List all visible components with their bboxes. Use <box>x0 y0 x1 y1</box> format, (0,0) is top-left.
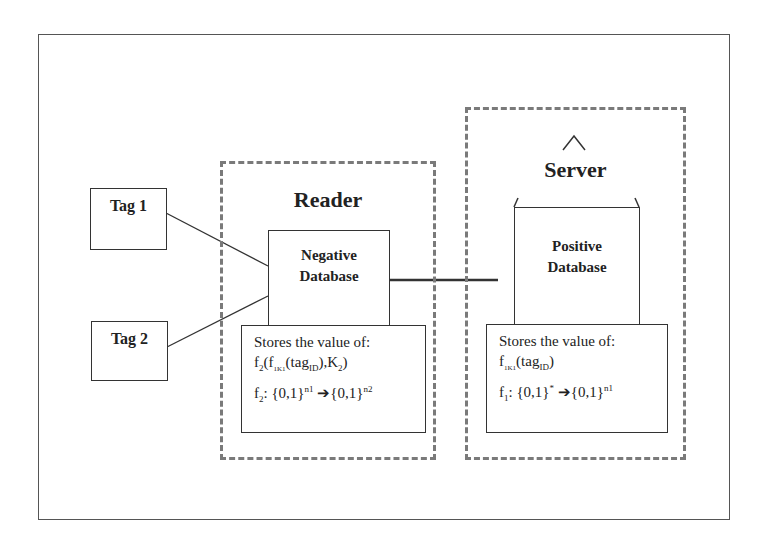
server-store-expr2: f1: {0,1}* ➔{0,1}n1 <box>499 378 667 408</box>
negative-database-label: Negative Database <box>269 245 389 287</box>
reader-title: Reader <box>220 187 436 213</box>
server-store-box: Stores the value of: f1K1(tagID) f1: {0,… <box>486 324 668 433</box>
reader-store-box: Stores the value of: f2(f1K1(tagID),K2) … <box>241 325 426 433</box>
positive-database-label: Positive Database <box>515 236 639 278</box>
negative-database-box: Negative Database <box>268 230 390 330</box>
arrow-icon: ➔ <box>558 384 571 400</box>
reader-store-expr1: f2(f1K1(tagID),K2) <box>254 352 425 379</box>
tag-1-box: Tag 1 <box>90 188 167 250</box>
tag-2-box: Tag 2 <box>91 321 168 381</box>
server-store-heading: Stores the value of: <box>499 331 667 351</box>
server-store-expr1: f1K1(tagID) <box>499 351 667 378</box>
tag-2-label: Tag 2 <box>92 330 167 348</box>
arrow-icon: ➔ <box>317 385 330 401</box>
reader-store-expr2: f2: {0,1}n1 ➔{0,1}n2 <box>254 379 425 409</box>
tag-1-label: Tag 1 <box>91 197 166 215</box>
server-title: Server <box>465 157 686 183</box>
positive-database-box: Positive Database <box>514 207 640 329</box>
reader-store-heading: Stores the value of: <box>254 332 425 352</box>
